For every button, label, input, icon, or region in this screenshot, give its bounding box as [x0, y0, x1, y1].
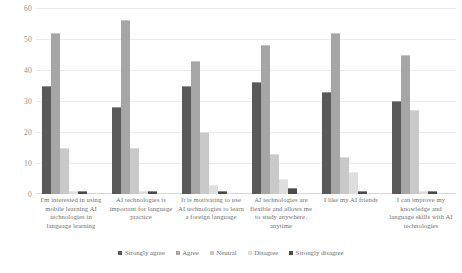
y-axis-tick-label: 20	[24, 128, 32, 137]
category-label: I like my AI friends	[316, 196, 386, 244]
bar	[51, 33, 60, 194]
bar	[209, 185, 218, 194]
legend-swatch-icon	[176, 251, 180, 255]
bar	[112, 107, 121, 194]
bar-group	[106, 8, 176, 194]
y-axis-tick-label: 50	[24, 35, 32, 44]
legend-swatch-icon	[248, 251, 252, 255]
bar	[182, 86, 191, 195]
bar	[148, 191, 157, 194]
bar	[130, 148, 139, 195]
bar	[428, 191, 437, 194]
category-label: AI technologies are flexible and allows …	[246, 196, 316, 244]
bar	[261, 45, 270, 194]
bar	[191, 61, 200, 194]
bar	[358, 191, 367, 194]
bar	[392, 101, 401, 194]
bar	[121, 20, 130, 194]
bar	[60, 148, 69, 195]
bar	[340, 157, 349, 194]
plot-area: 6050403020100	[0, 8, 462, 194]
legend-item[interactable]: Disagree	[248, 249, 279, 256]
bar	[288, 188, 297, 194]
bar	[401, 55, 410, 195]
bar	[139, 191, 148, 194]
bar-group	[246, 8, 316, 194]
legend-item[interactable]: Neutral	[210, 249, 237, 256]
y-axis: 6050403020100	[0, 8, 36, 194]
bar	[419, 191, 428, 194]
category-label: It is motivating to use AI technologies …	[176, 196, 246, 244]
bar	[279, 179, 288, 195]
bar-group	[176, 8, 246, 194]
bar	[78, 191, 87, 194]
legend-item[interactable]: Strongly agree	[118, 249, 164, 256]
bars-container	[36, 8, 456, 194]
bar	[69, 191, 78, 194]
y-axis-tick-label: 60	[24, 4, 32, 13]
legend-label: Strongly agree	[125, 249, 165, 256]
category-label: I'm interested in using mobile learning …	[36, 196, 106, 244]
category-label: I can improve my knowledge and language …	[386, 196, 456, 244]
category-label: AI technologies is important for languag…	[106, 196, 176, 244]
legend-label: Neutral	[216, 249, 236, 256]
legend-item[interactable]: Agree	[176, 249, 199, 256]
chart-legend: Strongly agreeAgreeNeutralDisagreeStrong…	[0, 249, 462, 256]
bar-group	[386, 8, 456, 194]
y-axis-tick-label: 40	[24, 66, 32, 75]
legend-label: Agree	[182, 249, 199, 256]
legend-label: Disagree	[254, 249, 278, 256]
legend-swatch-icon	[118, 251, 122, 255]
y-axis-tick-label: 10	[24, 159, 32, 168]
legend-item[interactable]: Strongly disagree	[289, 249, 343, 256]
bar	[200, 132, 209, 194]
bar	[252, 82, 261, 194]
bar	[322, 92, 331, 194]
bar	[270, 154, 279, 194]
bar	[331, 33, 340, 194]
legend-swatch-icon	[210, 251, 214, 255]
category-labels: I'm interested in using mobile learning …	[36, 196, 456, 244]
bar	[218, 191, 227, 194]
bar	[410, 110, 419, 194]
y-axis-tick-label: 0	[28, 190, 32, 199]
legend-swatch-icon	[289, 251, 293, 255]
grouped-bar-chart: 6050403020100 I'm interested in using mo…	[0, 0, 462, 273]
legend-label: Strongly disagree	[296, 249, 344, 256]
y-axis-tick-label: 30	[24, 97, 32, 106]
bar-group	[316, 8, 386, 194]
bar	[42, 86, 51, 195]
bar-group	[36, 8, 106, 194]
bar	[349, 172, 358, 194]
